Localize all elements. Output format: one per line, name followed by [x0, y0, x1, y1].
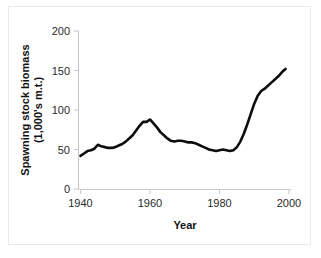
y-tick-label-200: 200	[52, 25, 70, 37]
x-tick-label-1980: 1980	[207, 197, 231, 209]
x-tick-label-1940: 1940	[68, 197, 92, 209]
y-axis-title-line2: (1,000's m.t.)	[32, 77, 44, 144]
x-tick-label-1960: 1960	[138, 197, 162, 209]
y-tick-label-150: 150	[52, 65, 70, 77]
y-tick-label-0: 0	[64, 183, 70, 195]
x-tick-label-2000: 2000	[277, 197, 301, 209]
data-series-line	[81, 69, 286, 156]
y-axis-title-line1: Spawning stock biomass	[19, 44, 31, 175]
line-chart: 200 150 100 50 0 1940 1960 1980 2000 Yea…	[0, 0, 321, 258]
x-axis-title: Year	[173, 219, 197, 231]
chart-figure: 200 150 100 50 0 1940 1960 1980 2000 Yea…	[0, 0, 321, 258]
y-tick-label-100: 100	[52, 104, 70, 116]
y-tick-label-50: 50	[58, 144, 70, 156]
